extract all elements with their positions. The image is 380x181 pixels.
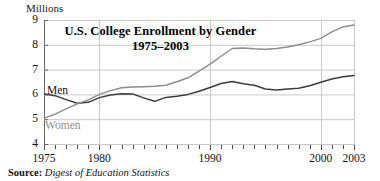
source-prefix: Source: [8, 167, 42, 178]
chart-title: U.S. College Enrollment by Gender 1975–2… [48, 24, 273, 54]
y-axis-tick-label: 8 [32, 39, 38, 51]
source-note: Source: Digest of Education Statistics [8, 167, 169, 179]
source-text: Digest of Education Statistics [45, 167, 170, 178]
x-axis-tick-label: 1975 [33, 152, 56, 164]
chart-title-line2: 1975–2003 [48, 39, 273, 54]
y-axis-tick-labels: 987654 [0, 20, 38, 145]
x-axis-tick-label: 1990 [199, 152, 222, 164]
y-axis-tick-label: 5 [32, 113, 38, 125]
y-axis-tick-label: 4 [32, 138, 38, 150]
chart-figure: Millions 987654 19751980199020002003 U.S… [0, 0, 380, 181]
series-label-men: Men [47, 84, 68, 96]
y-axis-tick-label: 6 [32, 88, 38, 100]
series-label-women: Women [45, 119, 80, 131]
x-axis-tick-label: 2000 [309, 152, 332, 164]
x-axis-tick-label: 2003 [343, 152, 366, 164]
y-axis-tick-label: 9 [32, 14, 38, 26]
x-axis-tick-label: 1980 [88, 152, 111, 164]
y-axis-tick-label: 7 [32, 64, 38, 76]
chart-title-line1: U.S. College Enrollment by Gender [65, 24, 257, 38]
x-axis-tick-labels: 19751980199020002003 [0, 152, 380, 168]
